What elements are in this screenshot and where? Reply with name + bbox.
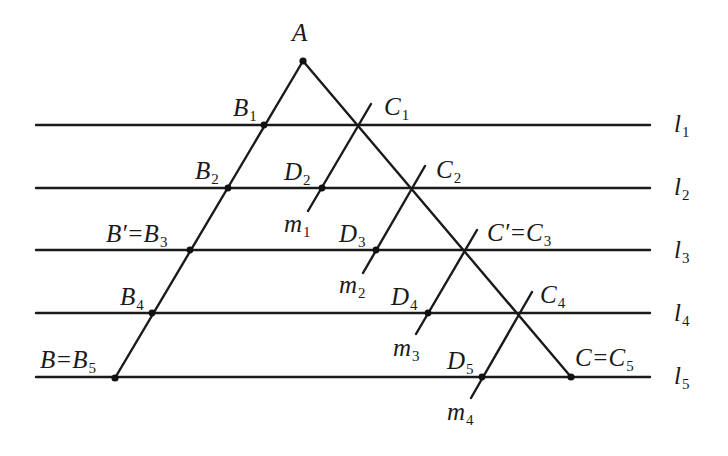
line-m4 xyxy=(471,292,532,398)
label-m4: m4 xyxy=(447,398,474,428)
point-D4 xyxy=(425,310,432,317)
point-B5 xyxy=(111,374,118,381)
point-D2 xyxy=(319,185,326,192)
label-D2: D2 xyxy=(283,158,311,188)
label-l2: l2 xyxy=(674,173,689,203)
label-m2: m2 xyxy=(339,271,366,301)
point-B3 xyxy=(187,247,194,254)
label-C5: C=C5 xyxy=(575,344,634,374)
label-l3: l3 xyxy=(674,236,689,266)
label-C3: C′=C3 xyxy=(487,219,551,249)
label-C1: C1 xyxy=(384,93,409,123)
label-A: A xyxy=(290,19,308,46)
line-m1 xyxy=(308,104,371,211)
point-B2 xyxy=(225,185,232,192)
label-l1: l1 xyxy=(674,110,689,140)
label-D4: D4 xyxy=(390,283,418,313)
label-B1: B1 xyxy=(233,94,257,124)
label-m1: m1 xyxy=(284,210,311,240)
label-l5: l5 xyxy=(674,362,689,392)
point-B1 xyxy=(261,122,268,129)
point-C5 xyxy=(567,373,574,380)
label-m3: m3 xyxy=(393,334,420,364)
label-C2: C2 xyxy=(436,156,461,186)
label-l4: l4 xyxy=(674,299,690,329)
label-B5: B=B5 xyxy=(40,346,96,376)
label-C4: C4 xyxy=(540,281,566,311)
point-D5 xyxy=(479,374,486,381)
point-D3 xyxy=(373,247,380,254)
line-m3 xyxy=(416,230,477,334)
label-B2: B2 xyxy=(195,157,219,187)
label-B3: B′=B3 xyxy=(106,220,167,250)
point-A xyxy=(299,57,306,64)
point-B4 xyxy=(149,310,156,317)
label-D5: D5 xyxy=(446,347,474,377)
label-B4: B4 xyxy=(120,283,144,313)
label-D3: D3 xyxy=(338,220,366,250)
geometry-diagram: A B1 B2 B′=B3 B4 B=B5 C1 C2 C′=C3 C4 C=C… xyxy=(0,0,728,456)
line-m2 xyxy=(363,166,425,273)
